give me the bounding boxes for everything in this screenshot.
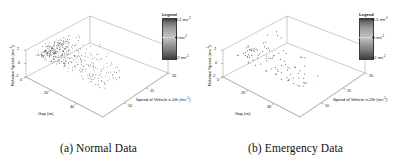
- colorbar-tick-label-1: 0 ms-2: [373, 35, 384, 40]
- z-tick-label-0: 10: [128, 105, 132, 109]
- z-tick-label-1: 15: [150, 90, 154, 94]
- x-tick-label-1: 20: [241, 92, 245, 96]
- z-tick-label-2: 20: [172, 75, 176, 79]
- panel-caption-a: (a) Normal Data: [0, 142, 197, 154]
- legend-title: Legend: [162, 12, 177, 17]
- colorbar-divider: [162, 37, 175, 38]
- x-tick-label-2: 30: [267, 106, 271, 110]
- y-tick-label-0: 2: [17, 48, 19, 52]
- x-axis-label: Gap (m): [235, 112, 250, 117]
- z-axis-label: Speed of Vehicle n-2th (ms-1): [136, 97, 190, 103]
- plot-3d-emergency: 2 0 -2 Relative Speed (ms-1) 0 20 30 Gap…: [197, 2, 394, 122]
- x-tick-label-0: 0: [217, 79, 219, 83]
- z-tick-label-0: 10: [325, 105, 329, 109]
- colorbar: [162, 18, 177, 60]
- y-axis-label: Relative Speed (ms-1): [207, 45, 213, 86]
- y-tick-label-1: 0: [18, 62, 20, 66]
- x-tick-label-0: 0: [20, 79, 22, 83]
- legend-emergency: Legend 0.5 ms-2 0 ms-2 -2 ms-2: [355, 12, 395, 60]
- colorbar-tick-label-0: 0.5 ms-2: [373, 17, 388, 22]
- y-tick-label-0: 2: [214, 48, 216, 52]
- colorbar: [359, 18, 374, 60]
- z-tick-label-1: 15: [347, 90, 351, 94]
- z-axis-label: Speed of Vehicle n-2th (ms-1): [333, 97, 387, 103]
- colorbar-tick-label-1: 0 ms-2: [176, 35, 187, 40]
- figure-container: 2 0 -2 Relative Speed (ms-1) 0 20 40 Gap…: [0, 0, 395, 160]
- panel-emergency-data: 2 0 -2 Relative Speed (ms-1) 0 20 30 Gap…: [197, 0, 394, 160]
- colorbar-divider: [359, 37, 372, 38]
- colorbar-tick-label-2: -2 ms-2: [176, 55, 189, 60]
- x-tick-label-2: 40: [70, 106, 74, 110]
- z-tick-label-2: 20: [369, 75, 373, 79]
- x-axis-label: Gap (m): [38, 112, 53, 117]
- x-tick-label-1: 20: [44, 92, 48, 96]
- y-axis-label: Relative Speed (ms-1): [10, 45, 16, 86]
- panel-caption-b: (b) Emergency Data: [197, 142, 394, 154]
- colorbar-tick-label-2: -2 ms-2: [373, 55, 386, 60]
- y-tick-label-1: 0: [215, 62, 217, 66]
- panel-normal-data: 2 0 -2 Relative Speed (ms-1) 0 20 40 Gap…: [0, 0, 197, 160]
- y-axis-ticks: [24, 50, 26, 77]
- y-axis-ticks: [221, 50, 223, 77]
- plot-3d-normal: 2 0 -2 Relative Speed (ms-1) 0 20 40 Gap…: [0, 2, 197, 122]
- colorbar-tick-label-0: 0.2 ms-2: [176, 17, 191, 22]
- legend-title: Legend: [359, 12, 374, 17]
